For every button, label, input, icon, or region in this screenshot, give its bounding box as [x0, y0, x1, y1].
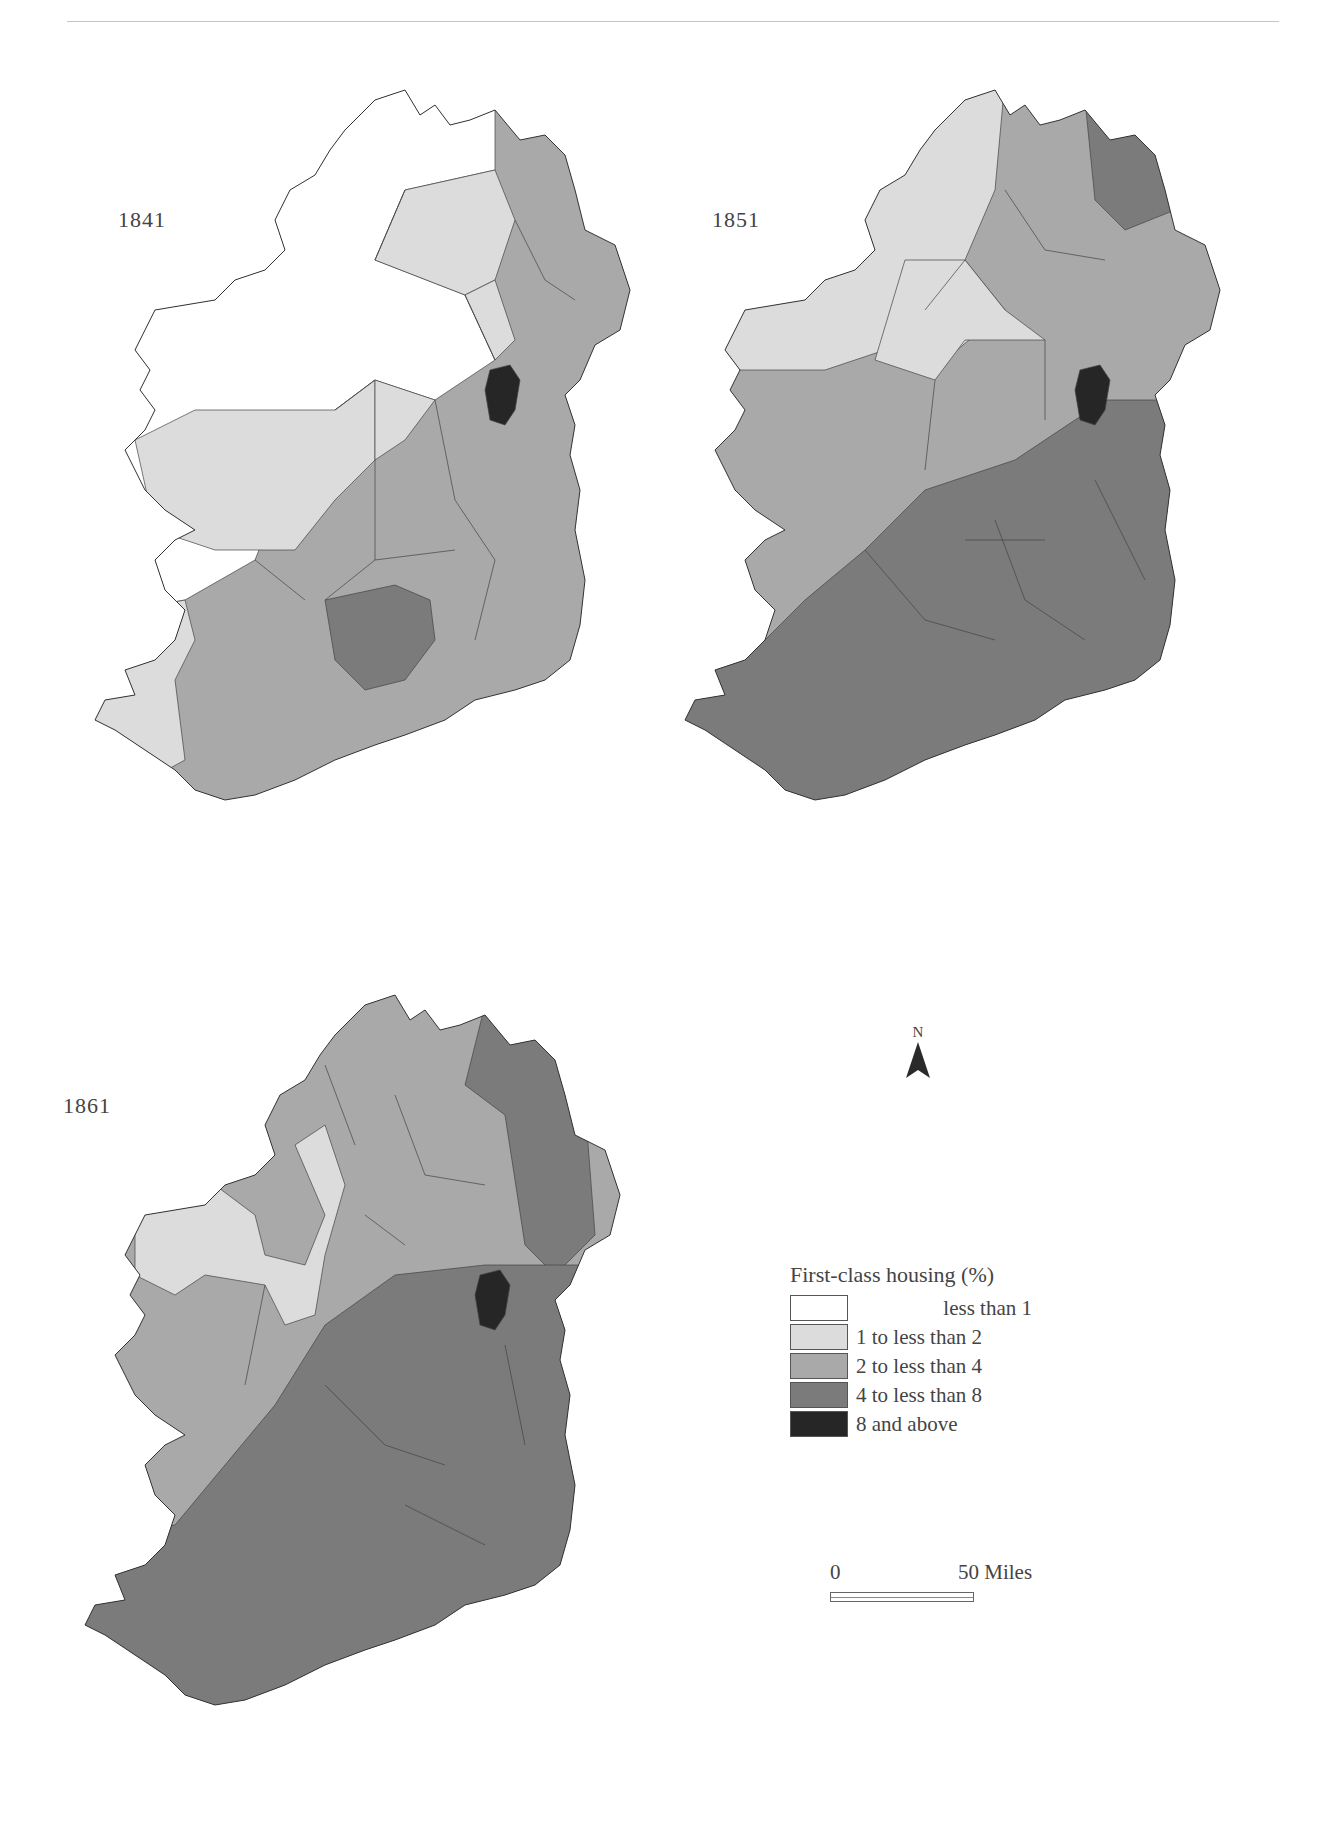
choropleth-1851 — [665, 80, 1225, 820]
legend-row: 1 to less than 2 — [790, 1323, 1050, 1351]
legend-label: less than 1 — [856, 1296, 1050, 1321]
scale-bar: 0 50 Miles — [818, 1560, 1038, 1586]
map-1841 — [75, 80, 635, 820]
north-arrow: N — [903, 1025, 933, 1084]
legend-row: 8 and above — [790, 1410, 1050, 1438]
scale-bar-graphic — [830, 1592, 974, 1602]
choropleth-1861 — [65, 975, 625, 1735]
legend-swatch-2-to-4 — [790, 1353, 848, 1379]
year-label-1851: 1851 — [712, 207, 760, 233]
legend-row: less than 1 — [790, 1294, 1050, 1322]
north-label: N — [903, 1025, 933, 1040]
year-label-1861: 1861 — [63, 1093, 111, 1119]
legend-label: 1 to less than 2 — [856, 1325, 982, 1350]
top-rule — [67, 21, 1279, 22]
map-1861 — [65, 975, 625, 1735]
choropleth-1841 — [75, 80, 635, 820]
north-arrow-icon — [903, 1040, 933, 1080]
year-label-1841: 1841 — [118, 207, 166, 233]
legend-row: 4 to less than 8 — [790, 1381, 1050, 1409]
legend-label: 4 to less than 8 — [856, 1383, 982, 1408]
legend-swatch-4-to-8 — [790, 1382, 848, 1408]
legend-title: First-class housing (%) — [790, 1262, 1050, 1288]
legend-label: 2 to less than 4 — [856, 1354, 982, 1379]
scale-end-label: 50 Miles — [958, 1560, 1032, 1585]
legend: First-class housing (%) less than 1 1 to… — [790, 1262, 1050, 1439]
legend-swatch-8-and-above — [790, 1411, 848, 1437]
legend-swatch-1-to-2 — [790, 1324, 848, 1350]
legend-swatch-less-than-1 — [790, 1295, 848, 1321]
scale-start-label: 0 — [830, 1560, 841, 1585]
map-1851 — [665, 80, 1225, 820]
legend-label: 8 and above — [856, 1412, 957, 1437]
legend-row: 2 to less than 4 — [790, 1352, 1050, 1380]
